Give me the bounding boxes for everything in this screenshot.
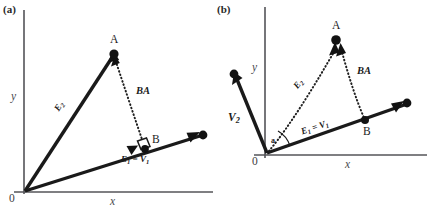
panel-a-v1-sub: 1 xyxy=(146,158,149,165)
figure-canvas: (a) A B BA E2 xyxy=(0,0,428,213)
panel-b-vector-e1v1-endpoint-dot xyxy=(403,99,412,108)
panel-a-point-b-dot xyxy=(141,145,149,153)
panel-a-y-axis-label: y xyxy=(11,91,16,103)
panel-b-v2-main: V xyxy=(228,111,236,123)
panel-a-vector-e1v1-label: E1 = V1 xyxy=(121,155,149,165)
panel-b-vector-ba-label: BA xyxy=(357,66,371,77)
panel-a: (a) A B BA E2 xyxy=(0,0,214,213)
panel-b-point-a-label: A xyxy=(332,20,340,32)
panel-b-vector-e1v1 xyxy=(267,104,407,153)
panel-b-origin-label: 0 xyxy=(252,156,258,168)
panel-b-point-b-label: B xyxy=(363,126,371,138)
panel-b-vector-v2-endpoint-dot xyxy=(230,70,239,79)
panel-a-point-a-label: A xyxy=(110,34,118,46)
panel-b-point-b-dot xyxy=(361,116,369,124)
panel-b: (b) A B BA xyxy=(214,0,428,213)
panel-b-angle-arc xyxy=(278,131,290,146)
panel-b-x-axis-label: x xyxy=(345,159,350,171)
panel-a-x-axis-label: x xyxy=(110,196,115,208)
panel-b-y-axis-label: y xyxy=(252,62,257,74)
panel-a-vector-ba-label: BA xyxy=(136,86,150,97)
panel-b-vector-v2-label: V2 xyxy=(228,112,240,126)
panel-a-origin-label: 0 xyxy=(9,193,15,205)
panel-a-vector-e2 xyxy=(25,56,113,191)
panel-b-vector-v2 xyxy=(236,77,267,153)
panel-b-v2-sub: 2 xyxy=(236,116,240,125)
panel-a-vector-e1v1-endpoint-dot xyxy=(199,131,208,140)
panel-b-angle-label: a xyxy=(271,137,275,145)
panel-a-eq: = xyxy=(130,154,140,164)
panel-a-graphics xyxy=(0,0,214,213)
panel-a-vector-e1v1 xyxy=(25,135,203,191)
panel-a-vector-ba xyxy=(116,62,145,148)
panel-b-point-a-dot xyxy=(331,35,341,45)
panel-a-point-b-label: B xyxy=(152,134,160,146)
panel-a-point-a-dot xyxy=(109,49,118,58)
panel-b-graphics xyxy=(214,0,428,213)
panel-b-vector-ba xyxy=(342,52,365,120)
